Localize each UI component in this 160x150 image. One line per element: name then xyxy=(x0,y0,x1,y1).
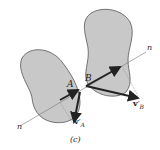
point-label-b: B xyxy=(85,74,92,83)
collision-diagram: n n A B v′A v′B (c) xyxy=(0,0,160,150)
normal-label-left: n xyxy=(17,123,22,131)
velocity-label-a: v′A xyxy=(74,117,85,128)
figure-caption: (c) xyxy=(70,136,81,144)
point-label-a: A xyxy=(67,80,74,89)
velocity-label-b: v′B xyxy=(133,99,144,110)
normal-label-right: n xyxy=(147,44,152,52)
